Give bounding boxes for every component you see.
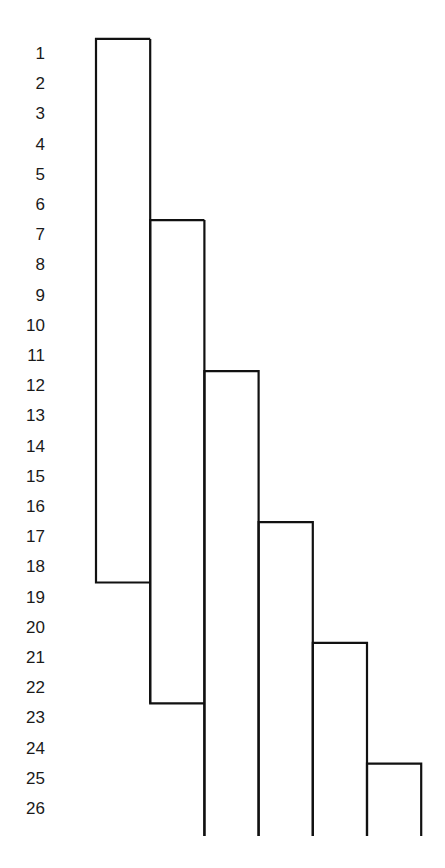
bracket-4 bbox=[259, 522, 313, 836]
bracket-6 bbox=[367, 764, 421, 836]
bracket-1 bbox=[96, 39, 150, 583]
bracket-diagram bbox=[0, 0, 445, 868]
bracket-3 bbox=[204, 371, 258, 836]
bracket-5 bbox=[313, 643, 367, 836]
bracket-2 bbox=[150, 220, 204, 703]
